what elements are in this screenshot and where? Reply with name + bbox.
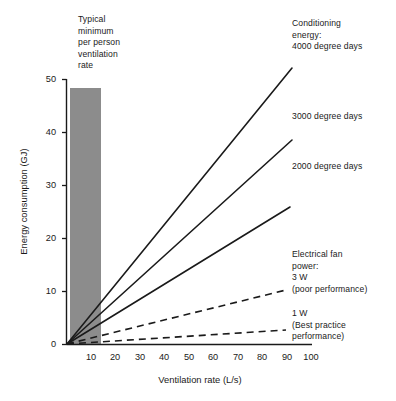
annotation-conditioning-energy-4000: Conditioning energy: 4000 degree days [292,18,396,53]
x-tick-label-30: 30 [127,352,153,362]
annotation-3000-degree-days: 3000 degree days [292,111,396,123]
annotation-2000-degree-days: 2000 degree days [292,161,396,173]
x-tick-label-20: 20 [102,352,128,362]
shaded-band-typical-minimum [70,88,101,344]
y-tick-label-50: 50 [32,74,56,84]
x-tick-label-80: 80 [249,352,275,362]
y-tick-label-30: 30 [32,180,56,190]
x-tick-label-10: 10 [78,352,104,362]
annotation-typical-minimum-ventilation-rate: Typical minimum per person ventilation r… [78,14,168,72]
x-tick-label-100: 100 [298,352,324,362]
x-tick-label-90: 90 [274,352,300,362]
annotation-fan-power-1w: 1 W (Best practice performance) [292,308,396,343]
y-tick-label-10: 10 [32,286,56,296]
y-tick-label-0: 0 [32,339,56,349]
annotation-electrical-fan-power-3w: Electrical fan power: 3 W (poor performa… [292,249,396,295]
chart-figure: 0 10 20 30 40 50 10 20 30 40 50 60 70 80… [0,0,396,401]
x-tick-label-50: 50 [176,352,202,362]
x-tick-label-70: 70 [225,352,251,362]
y-tick-label-40: 40 [32,127,56,137]
y-tick-label-20: 20 [32,233,56,243]
x-tick-label-60: 60 [200,352,226,362]
x-axis-title: Ventilation rate (L/s) [120,374,280,385]
y-axis-title: Energy consumption (GJ) [18,112,29,292]
x-tick-label-40: 40 [151,352,177,362]
